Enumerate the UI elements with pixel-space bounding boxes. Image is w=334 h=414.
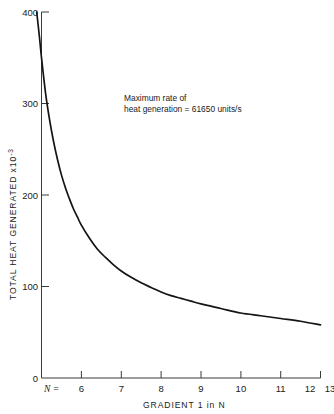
svg-text:TOTAL HEAT GENERATED x10-3: TOTAL HEAT GENERATED x10-3 xyxy=(7,148,19,300)
y-tick-label-200: 200 xyxy=(22,190,38,201)
data-series-line xyxy=(37,12,321,325)
y-tick-label-400: 400 xyxy=(22,7,38,18)
heat-generation-line-chart: 400 300 200 100 0 6 7 8 9 10 11 12 13 xyxy=(0,0,334,414)
y-axis-title-exponent: -3 xyxy=(7,148,14,156)
x-tick-label-13: 13 xyxy=(325,383,334,394)
x-axis-title-text: GRADIENT 1 in N xyxy=(143,400,226,410)
annotation-line-2-prefix: heat generation xyxy=(124,104,185,114)
x-tick-label-8: 8 xyxy=(158,383,163,394)
x-axis-variable-prefix: N = xyxy=(43,384,59,394)
y-axis-tick-labels: 400 300 200 100 0 xyxy=(22,7,38,384)
y-tick-label-100: 100 xyxy=(22,281,38,292)
y-tick-label-0: 0 xyxy=(33,373,38,384)
annotation-line-2: heat generation = 61650 units/s xyxy=(124,104,242,114)
x-tick-label-6: 6 xyxy=(79,383,84,394)
max-rate-annotation: Maximum rate of heat generation = 61650 … xyxy=(124,93,242,114)
x-axis-title: GRADIENT 1 in N xyxy=(143,400,226,410)
y-axis-title: TOTAL HEAT GENERATED x10-3 xyxy=(7,148,19,300)
x-tick-label-9: 9 xyxy=(198,383,203,394)
x-axis-tick-labels: 6 7 8 9 10 11 12 13 xyxy=(79,383,334,394)
annotation-line-1: Maximum rate of xyxy=(124,93,187,103)
y-axis-ticks xyxy=(42,12,50,287)
y-tick-label-300: 300 xyxy=(22,98,38,109)
x-tick-label-10: 10 xyxy=(236,383,247,394)
annotation-value: 61650 units/s xyxy=(192,104,242,114)
x-axis-ticks xyxy=(42,371,321,378)
y-axis-title-text: TOTAL HEAT GENERATED x10 xyxy=(8,156,18,300)
x-tick-label-11: 11 xyxy=(276,383,286,394)
x-tick-label-12: 12 xyxy=(305,383,316,394)
x-tick-label-7: 7 xyxy=(119,383,124,394)
chart-container: 400 300 200 100 0 6 7 8 9 10 11 12 13 xyxy=(0,0,334,414)
